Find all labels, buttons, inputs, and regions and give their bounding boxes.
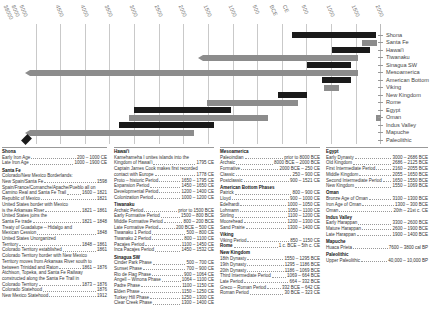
panel-col1: Shona Early Iron Age200 – 1000 CELate Ir… <box>2 149 107 299</box>
timeline-chart: 3800080005000450040003500300025002000150… <box>0 0 432 146</box>
legend-item: Mapuche <box>378 129 409 136</box>
bar-hawaii <box>332 47 370 53</box>
bar-sinagua <box>307 62 351 68</box>
divider <box>220 147 320 148</box>
legend-item: Oman <box>378 114 401 121</box>
x-tick-label: 500 <box>301 4 310 15</box>
legend-item: Hawai'i <box>378 47 404 54</box>
legend-item: Shona <box>378 32 402 39</box>
bar-american-bottom <box>322 77 351 83</box>
legend-item: Viking <box>378 84 401 91</box>
section-title: Rome <box>220 243 233 249</box>
bar-indus-valley <box>119 122 214 128</box>
x-tick-label: 4500 <box>55 4 66 18</box>
legend-item: American Bottom <box>378 77 429 84</box>
legend-item: New Kingdom <box>378 92 421 99</box>
legend-item: Paleolithic <box>378 137 412 144</box>
legend-item: Sinagua SW <box>378 62 417 69</box>
rome-row: Rome 1 c. BCE – 5th c. CE <box>220 243 320 249</box>
x-tick-label: 500 <box>252 4 261 15</box>
bar-viking <box>324 85 339 91</box>
gridline <box>356 24 357 144</box>
bar-mesoamerica <box>30 70 358 76</box>
gridline <box>109 24 110 144</box>
bar-tiwanaku <box>203 55 358 61</box>
gridline <box>233 24 234 144</box>
period-row: Inca Pacajes Period1450 – 1532 CE <box>114 247 214 253</box>
x-tick-label: 4000 <box>80 4 91 18</box>
legend-item: Mesoamerica <box>378 69 420 76</box>
period-row: Late Iron Age1000 – 1900 CE <box>2 160 107 166</box>
period-row: Clear Creek Phase1300 – 1400 CE <box>114 300 214 306</box>
gridline <box>282 24 283 144</box>
legend-item: Tiwanaku <box>378 54 410 61</box>
x-tick-label: 1500 <box>203 4 214 18</box>
x-tick-label: BCE <box>269 4 279 17</box>
bar-oman <box>129 115 268 121</box>
bar-shona <box>292 32 376 38</box>
period-row: Late Harappan1900 – 1400 BCE <box>326 232 428 238</box>
x-tick-label: 3500 <box>104 4 115 18</box>
period-row: New Mexico Statehood1912 <box>2 293 107 299</box>
bar-santa-fe <box>362 40 377 46</box>
x-tick-label: 2000 <box>375 4 386 18</box>
x-tick-label: 2000 <box>178 4 189 18</box>
x-tick-label: 1500 <box>351 4 362 18</box>
divider <box>2 147 107 148</box>
bar-rome <box>207 100 298 106</box>
period-row: Huaca Prieta7600 – 3800 cal BP <box>326 245 428 251</box>
x-tick-label: 2500 <box>154 4 165 18</box>
panel-col2: Hawai'i Kamehameha I unites islands into… <box>114 149 214 306</box>
legend-item: Rome <box>378 99 401 106</box>
gridline <box>306 24 307 144</box>
x-tick-label: 1000 <box>326 4 337 18</box>
period-row: Upper Paleolithic40,000 – 10,000 BP <box>326 258 428 264</box>
divider <box>326 147 428 148</box>
period-row: New Kingdom1550 – 1069 BCE <box>326 183 428 189</box>
bar-egypt <box>134 107 231 113</box>
gridline <box>36 24 37 144</box>
period-row: Sand Prairie1300 – 1400 CE <box>220 225 320 231</box>
legend-item: Egypt <box>378 107 400 114</box>
x-tick-label: CE <box>282 4 291 13</box>
divider <box>114 147 214 148</box>
bar-mapuche <box>30 130 194 136</box>
period-row: Roman Period30 BCE – 323 CE <box>220 290 320 296</box>
legend-item: Indus Valley <box>378 122 416 129</box>
period-row: Oman20th – 21st c. CE <box>326 208 428 214</box>
gridline <box>85 24 86 144</box>
period-row: Postclassic900 – 1521 CE <box>220 178 320 184</box>
panel-col3: Mesoamerica Paleoindianprior to 8000 BCE… <box>220 149 320 296</box>
bar-new-kingdom <box>278 92 307 98</box>
gridline <box>60 24 61 144</box>
period-row: Colonization Period1000 – 1200 CE <box>114 195 214 201</box>
panel-col4: Egypt Early Dynasty3000 – 2686 BCEOld Ki… <box>326 149 428 263</box>
legend-item: Santa Fe <box>378 39 409 46</box>
x-tick-label: 3000 <box>129 4 140 18</box>
x-tick-label: 1000 <box>228 4 239 18</box>
paleolithic-diamond-marker <box>21 134 32 145</box>
gridline <box>257 24 258 144</box>
